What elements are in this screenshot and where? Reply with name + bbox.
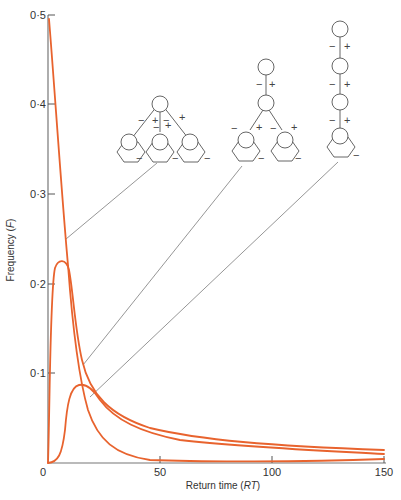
x-tick-label: 0 (40, 466, 46, 478)
three-branch-molecule-diagram (117, 96, 205, 162)
y-axis-title: Frequency (F) (5, 219, 16, 282)
x-tick-label: 50 (154, 466, 166, 478)
y-tick-label: 0·3 (30, 188, 46, 200)
svg-text:+: + (344, 40, 350, 52)
pointer-line-three-branch (66, 163, 157, 239)
y-tick-label: 0·1 (30, 367, 46, 379)
svg-text:+: + (344, 78, 350, 90)
chain-circle (258, 59, 274, 75)
chain-circle (332, 58, 348, 74)
svg-text:+: + (179, 111, 185, 123)
ring-circle (277, 132, 293, 148)
svg-text:+: + (291, 121, 297, 133)
svg-text:−: − (329, 114, 335, 126)
y-tick-label: 0·4 (30, 98, 46, 110)
svg-text:−: − (204, 152, 210, 164)
svg-text:−: − (258, 152, 264, 164)
two-branch-molecule-diagram (232, 59, 299, 161)
svg-text:+: + (344, 114, 350, 126)
ring-circle (121, 134, 137, 150)
svg-text:+: + (256, 121, 262, 133)
svg-text:−: − (153, 121, 159, 133)
svg-text:−: − (136, 152, 142, 164)
svg-text:−: − (172, 152, 178, 164)
chain-circle (258, 95, 274, 111)
x-axis-title: Return time (RT) (186, 480, 260, 491)
svg-text:−: − (329, 78, 335, 90)
x-tick-label: 150 (375, 466, 393, 478)
svg-text:+: + (165, 119, 171, 131)
svg-text:−: − (270, 122, 276, 134)
svg-text:−: − (256, 78, 262, 90)
y-tick-label: 0·5 (30, 9, 46, 21)
x-tick-label: 100 (263, 466, 281, 478)
ring-circle (238, 132, 254, 148)
pointer-line-linear-chain (90, 162, 338, 397)
svg-text:+: + (269, 78, 275, 90)
svg-text:−: − (231, 122, 237, 134)
svg-text:−: − (138, 114, 144, 126)
pointer-line-two-branch (83, 166, 242, 365)
x-tick-labels: 0 50 100 150 (40, 466, 393, 478)
chain-circle (332, 94, 348, 110)
y-tick-label: 0·2 (30, 278, 46, 290)
ring-circle (332, 128, 348, 144)
chart-svg: 0·5 0·4 0·3 0·2 0·1 0 50 100 150 Return … (0, 0, 401, 500)
y-tick-labels: 0·5 0·4 0·3 0·2 0·1 (30, 9, 46, 379)
svg-text:−: − (353, 149, 359, 161)
svg-text:−: − (295, 152, 301, 164)
chain-circle (332, 21, 348, 37)
svg-text:−: − (329, 40, 335, 52)
ring-circle (182, 134, 198, 150)
curve-linear-chain (48, 385, 384, 463)
central-circle (152, 96, 168, 112)
pointer-lines (66, 162, 338, 397)
ring-circle (152, 134, 168, 150)
